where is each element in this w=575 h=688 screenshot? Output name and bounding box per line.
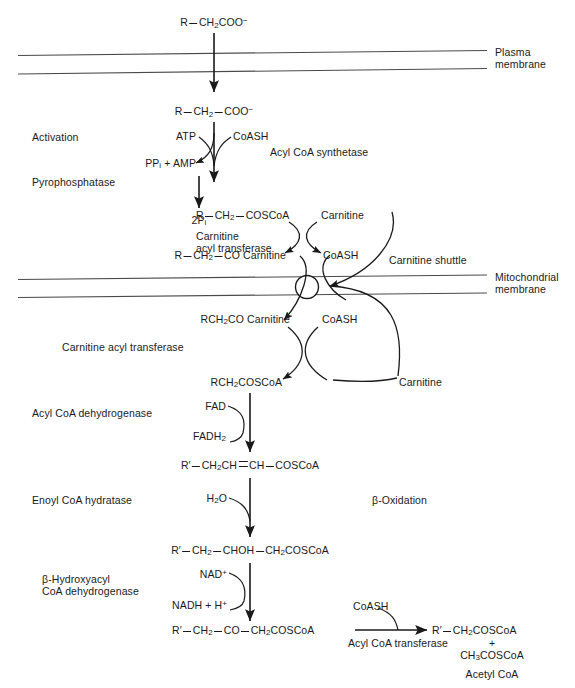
label-activation: Activation	[32, 131, 79, 144]
enzyme-hydroxyacyl-coa-dehydrogenase-line2: CoA dehydrogenase	[42, 585, 139, 598]
enzyme-hydroxyacyl-coa-dehydrogenase-line1: β-Hydroxyacyl	[42, 573, 110, 586]
curve-water-in	[229, 498, 250, 521]
diagram-canvas: RCH2COO− Plasma membrane RCH2COO− Activa…	[0, 0, 575, 688]
plasma-membrane-label-line2: membrane	[495, 58, 546, 71]
curve-carnitine-to-coash	[306, 222, 321, 253]
metabolite-acyl-carnitine-matrix: RCH2CO Carnitine	[200, 313, 290, 329]
curve-carnitine-shuttle-lower	[330, 286, 400, 376]
cofactor-coash-cytosolic-released: CoASH	[323, 249, 359, 262]
plasma-membrane-lines	[18, 51, 487, 75]
curve-carnitine-export	[323, 255, 346, 300]
metabolite-enoyl-coa: R′CH2CHCHCOSCoA	[181, 459, 319, 475]
metabolite-hydroxyacyl-coa: R′CH2CHOHCH2COSCoA	[171, 544, 329, 560]
cofactor-coash-thiolysis: CoASH	[353, 600, 389, 613]
enzyme-pyrophosphatase: Pyrophosphatase	[32, 176, 115, 189]
enzyme-carnitine-acyl-transferase-matrix: Carnitine acyl transferase	[62, 341, 184, 354]
metabolite-shortened-acyl-coa: R′CH2COSCoA	[432, 624, 516, 640]
label-carnitine-shuttle: Carnitine shuttle	[389, 254, 467, 267]
cofactor-nad-plus: NAD+	[200, 567, 227, 581]
metabolite-fatty-acid-cytosolic: RCH2COO−	[175, 104, 254, 121]
cofactor-fad: FAD	[205, 400, 226, 413]
enzyme-acyl-coa-synthetase: Acyl CoA synthetase	[270, 146, 368, 159]
cofactor-ppi-amp: PPi + AMP	[145, 157, 196, 173]
enzyme-carnitine-acyl-transferase-outer-line1: Carnitine	[196, 230, 239, 243]
curve-acylcoa-to-acylcarnitine	[285, 222, 300, 253]
metabolite-fatty-acid-extracellular: RCH2COO−	[180, 15, 248, 32]
mitochondrial-membrane-lines	[18, 275, 487, 298]
metabolite-acetyl-coa-name: Acetyl CoA	[466, 668, 519, 681]
metabolite-ketoacyl-coa: R′CH2COCH2COSCoA	[172, 624, 314, 640]
curve-coash-to-carnitine	[305, 327, 327, 380]
carnitine-translocase-pore	[296, 276, 319, 299]
label-beta-oxidation: β-Oxidation	[372, 494, 427, 507]
enzyme-enoyl-coa-hydratase: Enoyl CoA hydratase	[32, 494, 132, 507]
curve-nad-to-nadh	[229, 573, 245, 610]
curve-atp-in	[199, 137, 214, 166]
curve-fad-to-fadh2	[228, 406, 244, 442]
enzyme-acyl-coa-dehydrogenase: Acyl CoA dehydrogenase	[32, 407, 152, 420]
cofactor-nadh-h: NADH + H+	[172, 598, 227, 612]
cofactor-coash-matrix: CoASH	[322, 313, 358, 326]
curve-acylcarnitine-to-acylcoa	[283, 327, 302, 379]
metabolite-acetyl-coa-formula: CH3COSCoA	[460, 649, 524, 665]
curve-carnitine-in-matrix	[333, 378, 397, 381]
plasma-membrane-label-line1: Plasma	[495, 46, 531, 59]
cofactor-carnitine-cytosolic: Carnitine	[321, 209, 364, 222]
plus-sign: +	[489, 637, 495, 650]
mitochondrial-membrane-label-line2: membrane	[495, 283, 546, 296]
cofactor-atp: ATP	[176, 130, 196, 143]
metabolite-acyl-coa-matrix: RCH2COSCoA	[211, 376, 282, 392]
mitochondrial-membrane-label-line1: Mitochondrial	[495, 271, 559, 284]
cofactor-fadh2: FADH2	[193, 430, 226, 446]
cofactor-water: H2O	[206, 492, 227, 508]
cofactor-coash-activation: CoASH	[233, 130, 269, 143]
metabolite-acyl-coa-cytosolic: RCH2COSCoA	[196, 209, 289, 225]
cofactor-carnitine-matrix-released: Carnitine	[399, 376, 442, 389]
metabolite-acyl-carnitine-cytosolic: RCH2CO Carnitine	[174, 249, 286, 265]
curve-coash-in	[214, 137, 231, 166]
